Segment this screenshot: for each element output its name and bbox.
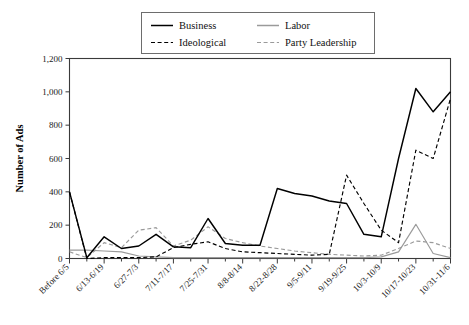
y-axis-title: Number of Ads (14, 124, 25, 192)
legend-label-labor: Labor (285, 20, 311, 31)
series-line-ideological (70, 99, 451, 259)
x-tick-label: 6/13-6/19 (74, 261, 106, 293)
y-axis: 02004006008001,0001,200 (42, 54, 69, 264)
y-tick-label: 1,200 (42, 54, 63, 64)
y-tick-label: 200 (49, 220, 63, 230)
chart-container: BusinessLaborIdeologicalParty Leadership… (0, 0, 469, 325)
x-tick-label: 10/31-11/6 (417, 261, 452, 296)
y-tick-label: 1,000 (42, 87, 63, 97)
legend-label-ideological: Ideological (179, 37, 226, 48)
y-tick-label: 600 (49, 154, 63, 164)
legend-label-party-leadership: Party Leadership (285, 37, 356, 48)
x-tick-label: 9/19-9/25 (316, 261, 348, 293)
chart-legend: BusinessLaborIdeologicalParty Leadership (142, 13, 375, 54)
legend-label-business: Business (179, 20, 216, 31)
plot-frame (70, 59, 451, 259)
y-tick-label: 400 (49, 187, 63, 197)
x-tick-label: 6/27-7/3 (112, 261, 141, 290)
x-tick-label: 9/5-9/11 (285, 262, 313, 290)
x-axis: Before 6/56/13-6/196/27-7/37/11-7/177/25… (37, 259, 452, 301)
x-tick-label: 7/11-7/17 (143, 261, 175, 293)
series-line-business (70, 89, 451, 258)
x-tick-label: Before 6/5 (37, 261, 71, 295)
series-group (70, 89, 451, 259)
x-tick-label: 8/8-8/14 (215, 261, 244, 290)
line-chart: BusinessLaborIdeologicalParty Leadership… (0, 0, 469, 325)
x-tick-label: 7/25-7/31 (178, 262, 210, 294)
x-tick-label: 10/17-10/23 (379, 261, 418, 300)
x-tick-label: 10/3-10/9 (351, 261, 383, 293)
x-tick-label: 8/22-8/28 (247, 261, 279, 293)
y-tick-label: 800 (49, 120, 63, 130)
